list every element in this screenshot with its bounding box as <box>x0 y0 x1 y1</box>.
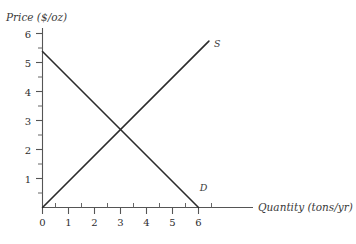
supply-curve <box>43 41 209 207</box>
x-axis-tick-labels: 0 1 2 3 4 5 6 <box>39 217 201 228</box>
x-tick-label-4: 4 <box>143 217 149 228</box>
x-tick-label-3: 3 <box>117 217 123 228</box>
demand-curve-label: D <box>199 182 208 193</box>
supply-demand-chart: 6 5 4 3 2 1 0 <box>0 0 356 244</box>
x-tick-label-0: 0 <box>39 217 45 228</box>
y-tick-label-1: 1 <box>25 174 31 185</box>
y-tick-label-2: 2 <box>25 145 31 156</box>
curves-group <box>43 41 209 207</box>
y-tick-label-3: 3 <box>25 116 31 127</box>
curve-labels: S D <box>199 38 221 194</box>
x-axis-title: Quantity (tons/yr) <box>258 201 353 214</box>
y-axis-tick-labels: 6 5 4 3 2 1 <box>25 29 31 185</box>
x-tick-label-1: 1 <box>65 217 71 228</box>
y-axis-ticks <box>36 34 43 194</box>
x-axis-ticks <box>43 203 212 214</box>
y-axis-title: Price ($/oz) <box>5 11 67 23</box>
axes-group <box>42 28 253 208</box>
supply-curve-label: S <box>214 38 221 49</box>
y-tick-label-6: 6 <box>25 29 31 40</box>
x-tick-label-2: 2 <box>91 217 97 228</box>
chart-canvas: 6 5 4 3 2 1 0 <box>0 0 356 244</box>
y-tick-label-5: 5 <box>25 58 31 69</box>
y-tick-label-4: 4 <box>25 87 31 98</box>
x-tick-label-6: 6 <box>195 217 201 228</box>
x-tick-label-5: 5 <box>169 217 175 228</box>
